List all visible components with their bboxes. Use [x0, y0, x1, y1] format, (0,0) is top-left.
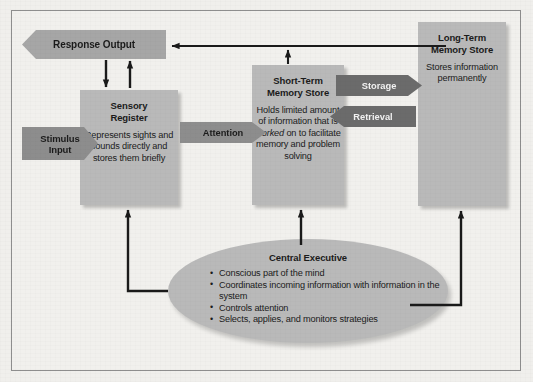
sensory-register-title-line1: Sensory [80, 100, 178, 112]
central-executive-oval: Central Executive Conscious part of the … [168, 239, 448, 343]
sensory-register-title-line2: Register [80, 112, 178, 124]
central-executive-title: Central Executive [168, 252, 448, 263]
banner-response-output-label: Response Output [53, 39, 135, 50]
short-term-memory-body: Holds limited amount of information that… [252, 105, 344, 162]
banner-stimulus-input-label-line1: Stimulus [40, 133, 79, 144]
banner-attention-label: Attention [203, 128, 243, 138]
central-executive-bullet: Conscious part of the mind [210, 268, 448, 280]
central-executive-bullet: Coordinates incoming information with in… [210, 280, 448, 303]
banner-stimulus-input-label-line2: Input [49, 144, 72, 155]
long-term-memory-body: Stores information permanently [418, 62, 506, 85]
diagram-canvas: Sensory Register Represents sights and s… [0, 0, 533, 382]
central-executive-bullet: Selects, applies, and monitors strategie… [210, 314, 448, 326]
banner-storage: Storage [336, 75, 422, 96]
short-term-memory-title-line2: Memory Store [252, 87, 344, 99]
box-short-term-memory-store: Short-Term Memory Store Holds limited am… [252, 65, 344, 205]
short-term-memory-body-pre: Holds limited amount of information that… [257, 105, 340, 126]
long-term-memory-title-line1: Long-Term [418, 32, 506, 44]
banner-retrieval: Retrieval [330, 106, 416, 127]
banner-response-output: Response Output [22, 30, 166, 59]
banner-storage-label: Storage [362, 81, 397, 91]
box-sensory-register: Sensory Register Represents sights and s… [80, 90, 178, 205]
box-long-term-memory-store: Long-Term Memory Store Stores informatio… [418, 22, 506, 206]
short-term-memory-title-line1: Short-Term [252, 75, 344, 87]
central-executive-bullet: Controls attention [210, 303, 448, 315]
banner-retrieval-label: Retrieval [353, 112, 392, 122]
banner-attention: Attention [180, 122, 266, 143]
central-executive-bullet-list: Conscious part of the mind Coordinates i… [168, 268, 448, 326]
long-term-memory-title-line2: Memory Store [418, 44, 506, 56]
banner-stimulus-input: Stimulus Input [22, 127, 98, 160]
